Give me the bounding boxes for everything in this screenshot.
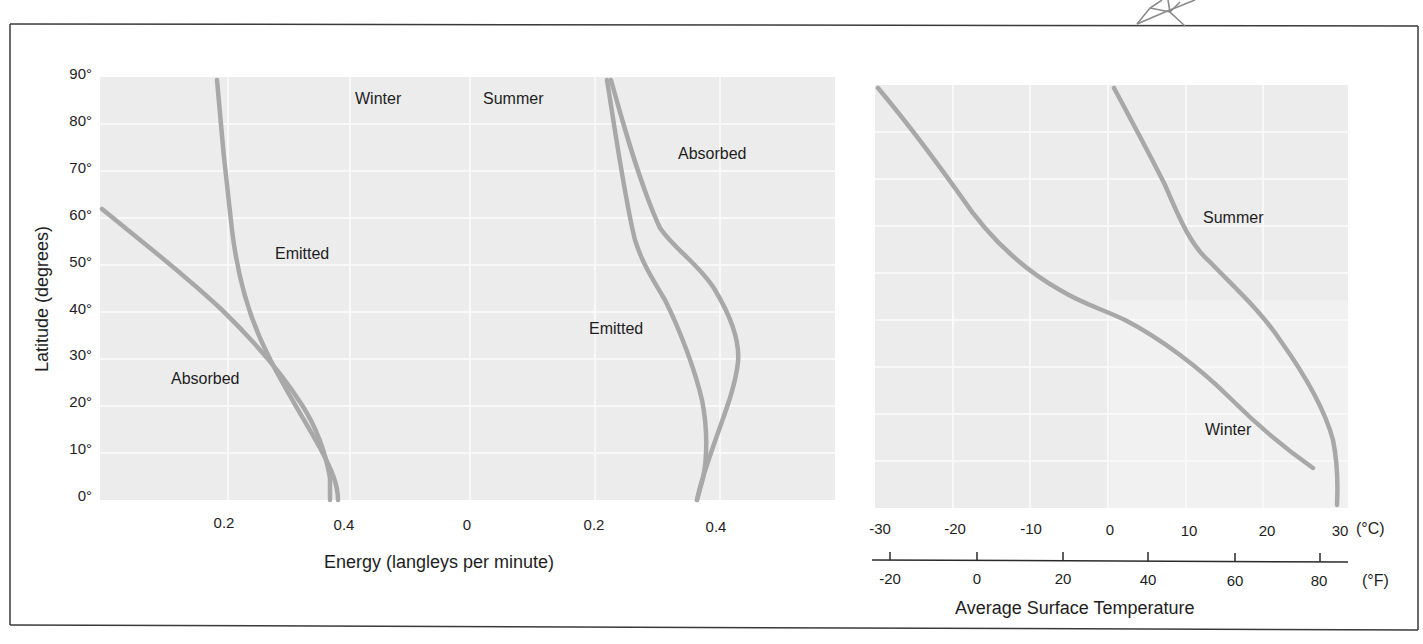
f-tick: -20 [879,570,901,587]
f-tick: 0 [973,570,981,587]
fahrenheit-axis [872,552,1348,562]
y-tick: 80° [32,112,92,129]
y-tick: 10° [32,440,92,457]
x-tick: 0.2 [214,514,235,531]
x-tick: 0.2 [584,516,605,533]
winter-header-label: Winter [355,90,401,108]
c-tick: -20 [944,520,966,537]
figure [0,0,1423,644]
c-tick: 30 [1332,522,1349,539]
y-tick: 50° [32,253,92,270]
c-tick: 20 [1259,522,1276,539]
c-tick: -30 [869,520,891,537]
energy-x-axis-title: Energy (langleys per minute) [324,552,554,573]
x-tick: 0.4 [706,518,727,535]
temperature-winter-label: Winter [1205,421,1251,439]
energy-plot-area [100,77,835,500]
winter-absorbed-label: Absorbed [171,370,240,388]
y-tick: 40° [32,300,92,317]
y-tick: 0° [32,487,92,504]
celsius-unit: (°C) [1356,520,1385,538]
y-tick: 70° [32,159,92,176]
y-tick: 20° [32,393,92,410]
temperature-plot-area [875,85,1348,508]
c-tick: 10 [1181,522,1198,539]
temperature-x-axis-title: Average Surface Temperature [955,598,1194,619]
c-tick: 0 [1106,521,1114,538]
f-tick: 40 [1140,571,1157,588]
y-tick: 30° [32,346,92,363]
summer-header-label: Summer [483,90,543,108]
x-tick: 0.4 [334,516,355,533]
summer-emitted-label: Emitted [589,320,643,338]
fahrenheit-unit: (°F) [1362,572,1389,590]
temperature-summer-label: Summer [1203,209,1263,227]
decorative-sketch-icon [1137,0,1195,26]
summer-absorbed-label: Absorbed [678,145,747,163]
y-tick: 60° [32,206,92,223]
f-tick: 20 [1055,570,1072,587]
x-tick: 0 [463,516,471,533]
c-tick: -10 [1020,520,1042,537]
f-tick: 60 [1227,572,1244,589]
f-tick: 80 [1311,572,1328,589]
winter-emitted-label: Emitted [275,245,329,263]
y-tick: 90° [32,65,92,82]
